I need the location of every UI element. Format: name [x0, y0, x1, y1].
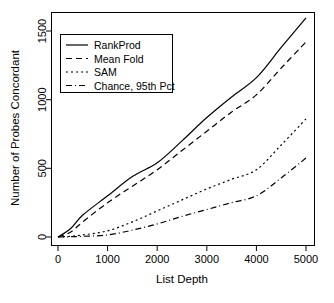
y-axis-title: Number of Probes Concordant — [9, 49, 21, 206]
y-tick-label: 500 — [36, 159, 48, 177]
x-axis-title: List Depth — [156, 273, 208, 285]
y-tick-label: 1500 — [36, 19, 48, 43]
x-tick-label: 5000 — [294, 253, 318, 265]
x-tick-label: 1000 — [95, 253, 119, 265]
series-line-chance-95th-pct — [58, 158, 306, 237]
x-tick-label: 3000 — [195, 253, 219, 265]
legend-label-chance: Chance, 95th Pct — [94, 80, 175, 92]
chart-figure: 0 500 1000 1500 Number of Probes Concord… — [0, 0, 334, 303]
legend-label-sam: SAM — [94, 66, 117, 78]
legend-label-mean-fold: Mean Fold — [94, 53, 144, 65]
x-axis-tick-labels: 0 1000 2000 3000 4000 5000 — [55, 253, 318, 265]
y-axis-tick-labels: 0 500 1000 1500 — [36, 19, 48, 240]
legend-label-rankprod: RankProd — [94, 39, 141, 51]
y-tick-label: 0 — [36, 234, 48, 240]
x-tick-label: 0 — [55, 253, 61, 265]
y-tick-label: 1000 — [36, 87, 48, 111]
x-tick-label: 2000 — [145, 253, 169, 265]
chart-legend: RankProd Mean Fold SAM Chance, 95th Pct — [61, 35, 175, 93]
x-tick-label: 4000 — [244, 253, 268, 265]
line-chart: 0 500 1000 1500 Number of Probes Concord… — [0, 0, 334, 303]
x-axis-ticks — [58, 246, 306, 251]
y-axis-ticks — [46, 31, 51, 237]
series-line-sam — [58, 119, 306, 237]
